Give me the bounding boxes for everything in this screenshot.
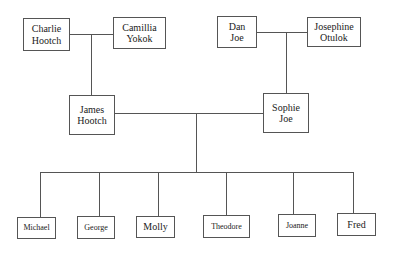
person-sophie-joe: Sophie Joe <box>263 93 309 133</box>
descent-line-children <box>196 113 197 172</box>
descent-line-james <box>91 34 92 95</box>
drop-line-fred <box>353 172 354 213</box>
person-josephine-otulok: Josephine Otulok <box>307 17 361 47</box>
person-michael: Michael <box>17 217 56 239</box>
person-george: George <box>77 216 115 239</box>
drop-line-joanne <box>293 172 294 214</box>
person-name: Theodore <box>211 222 242 231</box>
drop-line-molly <box>158 172 159 216</box>
marriage-line-right <box>257 32 307 33</box>
descent-line-sophie <box>286 32 287 93</box>
person-theodore: Theodore <box>203 215 250 238</box>
marriage-line-parents <box>115 113 263 114</box>
person-charlie-hootch: Charlie Hootch <box>23 18 70 51</box>
person-camillia-yokok: Camillia Yokok <box>113 17 166 49</box>
person-name: George <box>84 223 107 232</box>
person-fred: Fred <box>337 213 376 236</box>
drop-line-michael <box>40 172 41 217</box>
drop-line-george <box>99 172 100 216</box>
person-molly: Molly <box>136 216 175 238</box>
person-name: James Hootch <box>77 104 106 127</box>
person-james-hootch: James Hootch <box>69 95 115 135</box>
person-name: Camillia Yokok <box>122 22 156 45</box>
person-dan-joe: Dan Joe <box>217 16 257 48</box>
person-name: Michael <box>23 223 49 232</box>
drop-line-theodore <box>226 172 227 215</box>
person-name: Charlie Hootch <box>32 23 61 46</box>
person-name: Sophie Joe <box>272 102 300 125</box>
person-name: Molly <box>143 221 167 233</box>
person-name: Dan Joe <box>229 21 246 44</box>
person-name: Joanne <box>286 221 308 230</box>
person-name: Fred <box>347 219 365 231</box>
person-joanne: Joanne <box>278 214 316 237</box>
person-name: Josephine Otulok <box>314 21 353 44</box>
sibling-line <box>40 172 354 173</box>
